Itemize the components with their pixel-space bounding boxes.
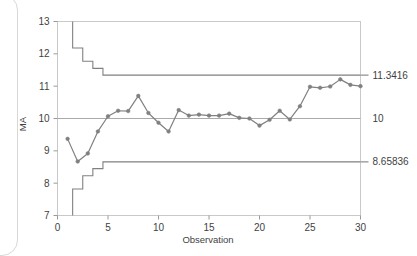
x-tick-label-25: 25 [304,222,316,233]
ma-data-point [238,116,242,120]
ucl-value-label: 11.3416 [373,70,409,81]
ma-data-point [157,121,161,125]
ma-data-point [197,113,201,117]
ma-data-point [147,111,151,115]
x-axis-ticks: 051015202530 [55,216,367,233]
y-axis-ticks: 78910111213 [38,16,57,221]
upper-control-limit-line [63,2,361,75]
ma-data-point [177,108,181,112]
lcl-value-label: 8.65836 [373,156,410,167]
y-tick-label-9: 9 [44,145,50,156]
ma-data-point [328,85,332,89]
ma-data-point [187,114,191,118]
x-tick-label-5: 5 [105,222,111,233]
ma-data-point [96,130,100,134]
y-tick-label-12: 12 [38,48,50,59]
ma-data-point [298,104,302,108]
x-tick-label-0: 0 [55,222,61,233]
x-tick-label-20: 20 [254,222,266,233]
ma-data-point [227,112,231,116]
ma-data-point [278,109,282,113]
ma-data-point [106,114,110,118]
ma-data-point [248,117,252,121]
y-tick-label-13: 13 [38,16,50,27]
ma-data-point [359,84,363,88]
x-tick-label-15: 15 [203,222,215,233]
ma-data-point [258,124,262,128]
x-tick-label-10: 10 [153,222,165,233]
ma-data-point [207,114,211,118]
ma-data-point [116,109,120,113]
ma-data-point [217,114,221,118]
ma-data-point [66,137,70,141]
ma-data-point [167,130,171,134]
ma-data-point [339,78,343,82]
ma-line-path [68,79,361,161]
ma-data-point [268,118,272,122]
y-tick-label-8: 8 [44,178,50,189]
ma-data-point [349,83,353,87]
ma-series-points [66,78,363,164]
ma-data-point [137,94,141,98]
x-axis-title: Observation [182,234,233,245]
y-tick-label-7: 7 [44,210,50,221]
x-tick-label-30: 30 [355,222,367,233]
ma-data-point [308,85,312,89]
center-value-label: 10 [373,113,385,124]
ma-data-point [86,152,90,156]
reference-line-labels: 11.3416108.65836 [373,70,410,168]
ma-data-point [126,109,130,113]
ma-data-point [288,118,292,122]
ma-data-point [318,86,322,90]
reference-lines [58,2,369,235]
ma-data-point [76,160,80,164]
ma-series-line [68,79,361,161]
y-tick-label-10: 10 [38,113,50,124]
y-tick-label-11: 11 [39,81,50,92]
y-axis-title: MA [17,116,28,131]
